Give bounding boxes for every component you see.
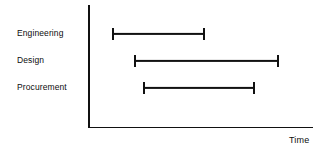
gantt-bar-procurement <box>143 87 255 88</box>
x-axis-title: Time <box>289 135 309 145</box>
category-label-procurement: Procurement <box>17 82 67 92</box>
y-axis-line <box>88 5 90 128</box>
bar-end-cap <box>277 55 279 67</box>
bar-line <box>134 59 279 61</box>
bar-end-cap <box>253 82 255 94</box>
gantt-chart: Engineering Design Procurement Time <box>0 0 321 152</box>
bar-line <box>112 32 205 34</box>
x-axis-line <box>88 127 313 129</box>
bar-line <box>143 86 255 88</box>
gantt-bar-design <box>134 60 279 61</box>
category-label-design: Design <box>17 55 44 65</box>
category-label-engineering: Engineering <box>17 28 63 38</box>
gantt-bar-engineering <box>112 33 205 34</box>
bar-end-cap <box>203 28 205 40</box>
